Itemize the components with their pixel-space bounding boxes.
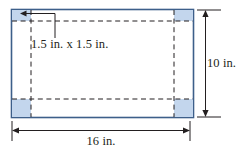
width-dimension-label: 16 in. (0, 134, 202, 149)
width-arrowhead-left-icon (12, 127, 19, 133)
height-arrowhead-top-icon (202, 10, 208, 17)
figure-svg (0, 0, 246, 155)
height-arrowhead-bottom-icon (202, 110, 208, 117)
corner-square-bottom-left (12, 99, 31, 117)
figure-root: 1.5 in. x 1.5 in. 10 in. 16 in. (0, 0, 246, 155)
height-dimension-label: 10 in. (207, 56, 236, 71)
corner-square-top-left (12, 10, 31, 21)
width-arrowhead-right-icon (183, 127, 190, 133)
corner-square-top-right (174, 10, 193, 21)
corner-square-bottom-right (174, 99, 193, 117)
sheet-rectangle (12, 10, 194, 118)
corner-square-label: 1.5 in. x 1.5 in. (31, 37, 108, 52)
